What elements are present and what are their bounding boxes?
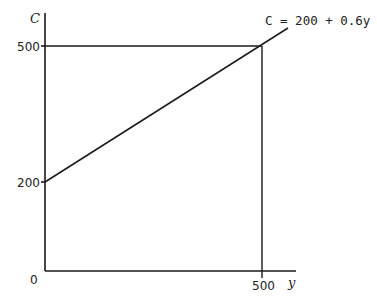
y-tick-label-500: 500	[17, 40, 40, 54]
equation-label: C = 200 + 0.6y	[265, 13, 371, 28]
x-tick-label-500: 500	[252, 279, 275, 293]
consumption-function-line	[45, 28, 288, 182]
origin-label: 0	[30, 273, 38, 287]
x-axis-label: y	[287, 275, 296, 290]
y-axis-label: C	[30, 11, 40, 26]
consumption-function-chart: C 500 200 0 500 y C = 200 + 0.6y	[0, 0, 377, 304]
y-tick-label-200: 200	[17, 176, 40, 190]
